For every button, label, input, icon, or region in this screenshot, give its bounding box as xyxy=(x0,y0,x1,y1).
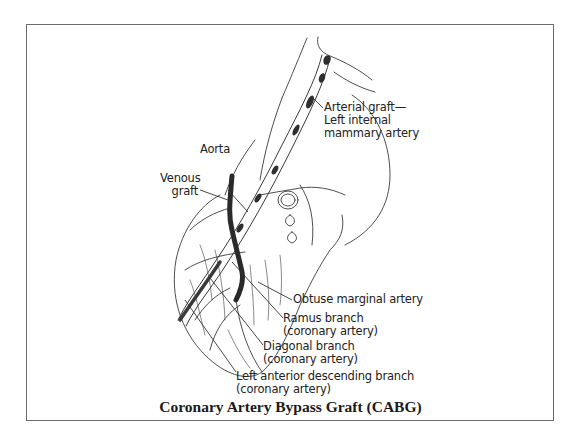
leader-lad xyxy=(185,300,236,372)
lima-distal-segment xyxy=(180,262,220,320)
figure-title: Coronary Artery Bypass Graft (CABG) xyxy=(0,398,581,416)
label-obtuse-marginal: Obtuse marginal artery xyxy=(293,293,423,306)
label-diagonal-branch: Diagonal branch (coronary artery) xyxy=(263,340,358,366)
leader-diagonal xyxy=(210,278,263,345)
label-line: (coronary artery) xyxy=(283,325,378,338)
label-line: (coronary artery) xyxy=(263,353,358,366)
leader-obtuse xyxy=(258,282,292,300)
label-venous-graft: Venous graft xyxy=(160,172,198,198)
label-aorta: Aorta xyxy=(200,143,230,156)
label-arterial-graft: Arterial graft— Left internal mammary ar… xyxy=(324,101,419,140)
vessel-outline-left xyxy=(282,38,307,98)
label-ramus-branch: Ramus branch (coronary artery) xyxy=(283,312,378,338)
label-line: mammary artery xyxy=(324,127,419,140)
label-lad-branch: Left anterior descending branch (coronar… xyxy=(236,370,414,396)
label-line: graft xyxy=(160,185,198,198)
label-line: (coronary artery) xyxy=(236,383,414,396)
